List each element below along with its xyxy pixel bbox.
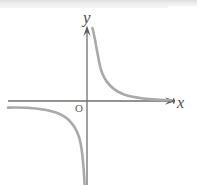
hyperbola-branch-quadrant-3: [8, 108, 85, 185]
coordinate-plane: [0, 0, 197, 185]
hyperbola-figure: y x O: [0, 0, 197, 185]
hyperbola-branch-quadrant-1: [93, 28, 172, 100]
y-axis-label: y: [83, 9, 91, 26]
origin-label: O: [75, 103, 83, 114]
x-axis-label: x: [177, 95, 184, 111]
